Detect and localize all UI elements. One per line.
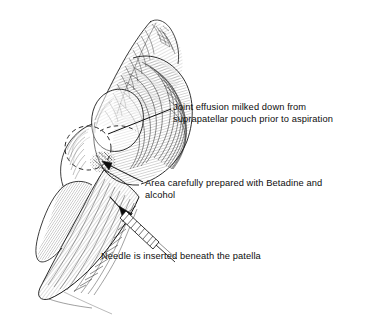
ankle-taper-2 xyxy=(64,292,112,314)
annotation-needle-insertion: Needle is inserted beneath the patella xyxy=(101,251,261,263)
annotation-joint-effusion-line1: Joint effusion milked down from xyxy=(173,102,333,114)
annotation-betadine-prep: Area carefully prepared with Betadine an… xyxy=(145,178,322,201)
syringe-barrel xyxy=(120,211,159,249)
annotation-needle-insertion-line1: Needle is inserted beneath the patella xyxy=(101,251,261,263)
lower-leg-group xyxy=(30,165,155,314)
annotation-betadine-prep-line1: Area carefully prepared with Betadine an… xyxy=(145,178,322,190)
knee-aspiration-figure: Joint effusion milked down from suprapat… xyxy=(0,0,377,319)
annotation-betadine-prep-line2: alcohol xyxy=(145,190,322,202)
ankle-taper xyxy=(49,299,92,308)
annotation-joint-effusion: Joint effusion milked down from suprapat… xyxy=(173,102,333,125)
illustration-canvas xyxy=(0,0,377,319)
annotation-joint-effusion-line2: suprapatellar pouch prior to aspiration xyxy=(173,114,333,126)
